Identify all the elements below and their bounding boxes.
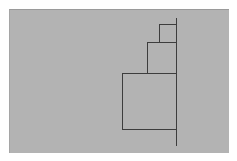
- vertical-axis-line: [176, 18, 177, 146]
- medium-square: [147, 42, 176, 74]
- large-square: [122, 73, 176, 130]
- diagram-panel: [9, 9, 229, 153]
- small-square: [159, 24, 176, 43]
